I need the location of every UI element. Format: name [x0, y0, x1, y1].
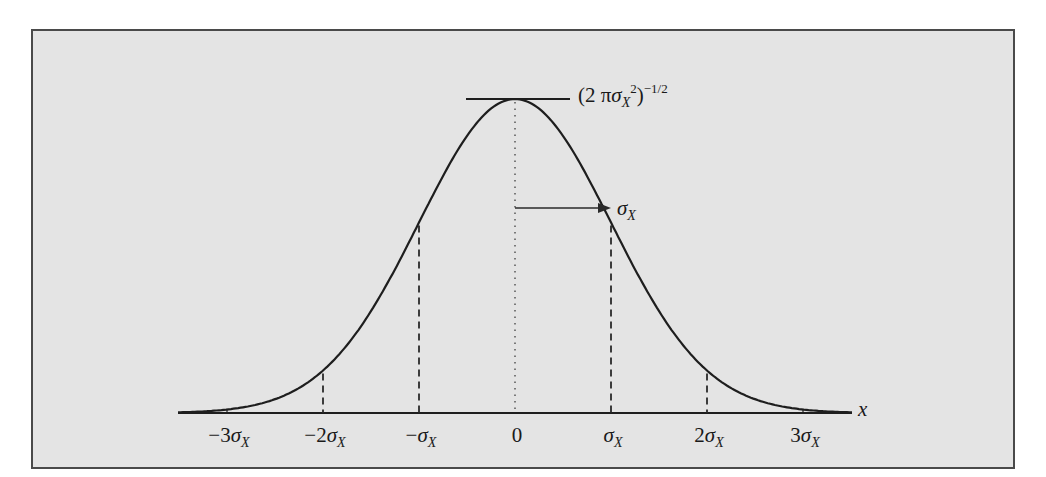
peak-value-label: (2 πσX2)−1/2 — [578, 85, 668, 106]
x-tick-label: 0 — [512, 425, 523, 446]
gaussian-figure: (2 πσX2)−1/2 σX x −3σX−2σX−σX0σX2σX3σX — [0, 0, 1046, 477]
x-tick-label: σX — [604, 425, 623, 446]
x-tick-label: 2σX — [694, 425, 723, 446]
sigma-arrow-label: σX — [617, 198, 636, 219]
x-tick-label: −σX — [406, 425, 437, 446]
x-tick-label: −3σX — [208, 425, 249, 446]
x-tick-label: 3σX — [790, 425, 819, 446]
x-tick-label: −2σX — [304, 425, 345, 446]
chart-canvas — [0, 0, 1046, 477]
x-axis-variable-label: x — [858, 399, 867, 420]
